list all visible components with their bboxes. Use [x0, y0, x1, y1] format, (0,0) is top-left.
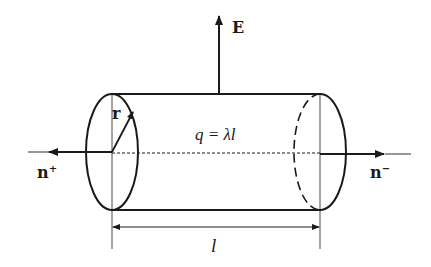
gaussian-cylinder-diagram: E r q = λl n+ n− l — [0, 0, 431, 267]
normal-left-sup: + — [49, 163, 57, 174]
normal-left-text: n — [37, 163, 49, 182]
radius-label-text: r — [112, 104, 120, 123]
normal-right-sup: − — [382, 163, 390, 174]
length-label: l — [211, 236, 216, 255]
radius-label: r — [112, 106, 120, 122]
charge-label-text: q = λl — [195, 125, 236, 144]
length-label-text: l — [211, 235, 216, 256]
normal-right-label: n− — [370, 164, 390, 181]
field-label: E — [232, 20, 244, 36]
right-end-cap-back — [294, 94, 320, 210]
normal-left-label: n+ — [37, 164, 57, 181]
charge-label: q = λl — [195, 126, 236, 143]
field-label-text: E — [232, 18, 244, 37]
right-end-cap-front — [320, 94, 346, 210]
normal-right-text: n — [370, 163, 382, 182]
